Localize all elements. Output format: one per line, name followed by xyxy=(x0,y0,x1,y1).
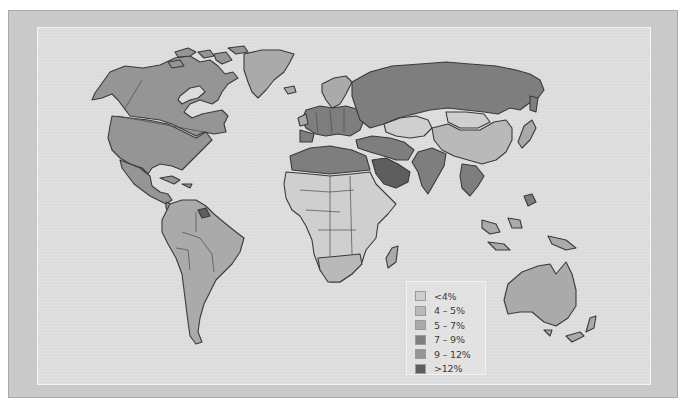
legend-item: 5 – 7% xyxy=(415,318,485,332)
legend-label: >12% xyxy=(434,363,462,374)
legend-label: 5 – 7% xyxy=(434,320,465,331)
legend-swatch xyxy=(415,335,426,345)
legend-item: 9 – 12% xyxy=(415,347,485,361)
legend-item: 4 – 5% xyxy=(415,304,485,318)
region-australia xyxy=(504,262,576,326)
region-southern-africa xyxy=(318,254,362,282)
region-southeast-asia xyxy=(460,164,484,196)
region-south-america xyxy=(162,200,244,344)
region-north-africa xyxy=(290,146,370,174)
legend-swatch xyxy=(415,291,426,301)
region-indonesia xyxy=(482,220,500,234)
world-map xyxy=(0,0,684,411)
region-europe xyxy=(302,106,364,136)
legend-swatch xyxy=(415,306,426,316)
map-legend: <4% 4 – 5% 5 – 7% 7 – 9% 9 – 12% >12% xyxy=(406,281,486,375)
legend-label: 4 – 5% xyxy=(434,305,465,316)
region-scandinavia xyxy=(322,76,352,108)
legend-label: <4% xyxy=(434,291,456,302)
legend-item: <4% xyxy=(415,289,485,303)
region-japan xyxy=(518,120,536,148)
legend-swatch xyxy=(415,320,426,330)
region-india xyxy=(412,148,446,194)
legend-item: 7 – 9% xyxy=(415,333,485,347)
region-new-zealand xyxy=(586,316,596,332)
legend-label: 7 – 9% xyxy=(434,334,465,345)
legend-item: >12% xyxy=(415,362,485,376)
legend-swatch xyxy=(415,364,426,374)
legend-swatch xyxy=(415,349,426,359)
legend-label: 9 – 12% xyxy=(434,349,471,360)
region-saudi-arabia xyxy=(372,158,410,188)
region-mongolia xyxy=(446,112,490,128)
